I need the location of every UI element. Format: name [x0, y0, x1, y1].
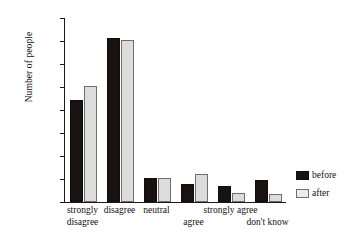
bar-after	[269, 194, 283, 202]
bar-before	[144, 178, 158, 202]
y-axis-tick	[60, 41, 64, 42]
bar-before	[255, 180, 269, 202]
bar-group	[107, 18, 135, 202]
bar-after	[232, 193, 246, 202]
y-axis-tick	[60, 202, 64, 203]
bar-group	[218, 18, 246, 202]
category-label-line-2: disagree	[38, 217, 128, 229]
bar-before	[218, 186, 232, 202]
y-axis-tick	[60, 110, 64, 111]
legend-label-before: before	[312, 168, 336, 183]
bar-after	[158, 178, 172, 202]
legend: before after	[296, 168, 344, 204]
bar-group	[255, 18, 283, 202]
y-axis-tick	[60, 156, 64, 157]
bar-before	[70, 100, 84, 202]
category-label-line-2: don't know	[223, 217, 313, 229]
bar-group	[144, 18, 172, 202]
bar-after	[195, 174, 209, 202]
x-axis-category-label: don't know	[223, 205, 313, 228]
plot-area: 020406080100120140160	[64, 18, 286, 203]
y-axis-tick	[60, 179, 64, 180]
bar-group	[70, 18, 98, 202]
bar-series-container	[65, 18, 286, 203]
bar-before	[107, 38, 121, 202]
y-axis-tick	[60, 87, 64, 88]
bar-chart: Number of people 020406080100120140160 s…	[0, 0, 344, 246]
legend-item-after: after	[296, 186, 344, 204]
bar-after	[121, 40, 135, 202]
legend-label-after: after	[312, 186, 329, 201]
y-axis-tick	[60, 18, 64, 19]
category-label-line-1	[223, 205, 313, 217]
legend-swatch-after-icon	[296, 189, 309, 198]
bar-after	[84, 86, 98, 202]
x-axis-category-labels: stronglydisagreedisagreeneutral agreestr…	[64, 205, 286, 245]
y-axis-tick	[60, 133, 64, 134]
y-axis-tick	[60, 64, 64, 65]
legend-item-before: before	[296, 168, 344, 186]
y-axis-title: Number of people	[24, 0, 34, 142]
bar-group	[181, 18, 209, 202]
legend-swatch-before-icon	[296, 171, 309, 180]
bar-before	[181, 184, 195, 202]
